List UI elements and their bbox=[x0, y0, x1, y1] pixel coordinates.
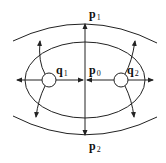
label-q2-base: q bbox=[127, 63, 134, 77]
label-p1: p1 bbox=[89, 8, 101, 22]
label-q1-sub: 1 bbox=[64, 69, 68, 78]
label-p1-base: p bbox=[89, 7, 96, 21]
label-p0: p0 bbox=[89, 64, 101, 78]
diagram-figure bbox=[0, 0, 166, 163]
q1-arrow-down bbox=[36, 86, 45, 117]
label-p1-sub: 1 bbox=[97, 13, 101, 22]
label-q2: q2 bbox=[127, 64, 139, 78]
label-p0-base: p bbox=[89, 63, 96, 77]
label-p2: p2 bbox=[89, 140, 101, 154]
q1-arrow-up bbox=[40, 41, 45, 74]
label-p2-base: p bbox=[89, 139, 96, 153]
q2-arrow-down bbox=[125, 86, 134, 117]
q2-circle bbox=[114, 73, 128, 87]
diagram-canvas: p1 p0 p2 q1 q2 bbox=[0, 0, 166, 163]
label-q2-sub: 2 bbox=[135, 69, 139, 78]
label-p2-sub: 2 bbox=[97, 145, 101, 154]
label-p0-sub: 0 bbox=[97, 69, 101, 78]
q1-circle bbox=[42, 73, 56, 87]
label-q1-base: q bbox=[56, 63, 63, 77]
label-q1: q1 bbox=[56, 64, 68, 78]
